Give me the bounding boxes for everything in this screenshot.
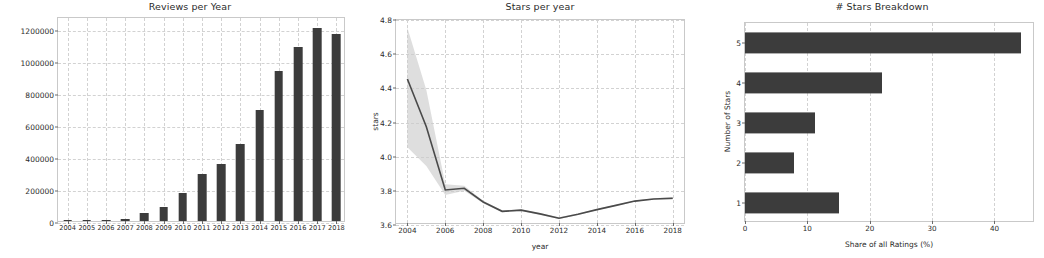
y-tick-mark — [55, 158, 58, 159]
x-tick-label: 2018 — [664, 226, 682, 235]
y-tick-label: 4.6 — [380, 50, 392, 59]
x-tick-label: 2011 — [194, 224, 211, 232]
y-tick-label: 1000000 — [21, 58, 54, 67]
gridline-vertical — [144, 18, 145, 221]
x-tick-label: 2012 — [550, 226, 568, 235]
y-tick-mark — [742, 163, 745, 164]
x-tick-label: 0 — [743, 224, 748, 233]
y-tick-label: 3.6 — [380, 221, 392, 230]
x-tick-label: 2013 — [232, 224, 249, 232]
bar — [236, 144, 245, 221]
x-tick-label: 2017 — [309, 224, 326, 232]
y-tick-label: 4.0 — [380, 152, 392, 161]
y-tick-label: 2 — [736, 159, 741, 168]
y-tick-mark — [742, 123, 745, 124]
x-tick-label: 2004 — [59, 224, 76, 232]
bar — [198, 174, 207, 221]
plot-area-stars-per-year: 3.63.84.04.24.44.64.82004200620082010201… — [395, 19, 685, 224]
x-tick-label: 2009 — [155, 224, 172, 232]
bar — [140, 213, 149, 221]
y-tick-label: 200000 — [25, 186, 54, 195]
x-axis-label-stars-breakdown: Share of all Ratings (%) — [744, 240, 1034, 249]
x-tick-label: 2008 — [136, 224, 153, 232]
chart-panel-reviews-per-year: Reviews per Year 02000004000006000008000… — [0, 0, 350, 258]
bar — [745, 72, 882, 93]
y-tick-mark — [742, 83, 745, 84]
bar — [313, 28, 322, 221]
y-axis-label-stars-breakdown: Number of Stars — [723, 91, 732, 153]
chart-panel-stars-per-year: Stars per year 3.63.84.04.24.44.64.82004… — [350, 0, 700, 258]
gridline-vertical — [68, 18, 69, 221]
y-tick-mark — [55, 223, 58, 224]
bar — [745, 152, 794, 173]
y-tick-label: 800000 — [25, 90, 54, 99]
x-tick-label: 2010 — [174, 224, 191, 232]
plot-area-reviews: 0200000400000600000800000100000012000002… — [57, 17, 345, 222]
x-tick-label: 10 — [803, 224, 812, 233]
x-tick-label: 40 — [990, 224, 999, 233]
x-tick-label: 2014 — [588, 226, 606, 235]
y-tick-label: 1 — [736, 199, 741, 208]
y-tick-mark — [55, 30, 58, 31]
plot-area-stars-breakdown: 01020304012345 — [744, 22, 1034, 222]
y-tick-mark — [742, 43, 745, 44]
bar — [294, 47, 303, 221]
y-tick-mark — [742, 203, 745, 204]
y-tick-label: 4.8 — [380, 16, 392, 25]
multi-chart-figure: Reviews per Year 02000004000006000008000… — [0, 0, 1044, 258]
x-tick-label: 2015 — [270, 224, 287, 232]
line-series-layer — [396, 20, 686, 225]
x-tick-label: 2005 — [78, 224, 95, 232]
gridline-vertical — [125, 18, 126, 221]
bar — [745, 32, 1021, 53]
y-tick-label: 4.4 — [380, 84, 392, 93]
x-tick-label: 2008 — [474, 226, 492, 235]
y-tick-label: 0 — [49, 219, 54, 228]
x-tick-label: 2014 — [251, 224, 268, 232]
x-tick-label: 2012 — [213, 224, 230, 232]
y-tick-mark — [55, 190, 58, 191]
chart-title-stars-breakdown: # Stars Breakdown — [700, 1, 1044, 12]
y-tick-mark — [55, 62, 58, 63]
y-tick-label: 600000 — [25, 122, 54, 131]
y-tick-label: 4.2 — [380, 118, 392, 127]
bar — [745, 112, 815, 133]
y-tick-mark — [55, 126, 58, 127]
x-tick-label: 2004 — [398, 226, 416, 235]
x-tick-label: 2016 — [290, 224, 307, 232]
bar — [274, 71, 283, 221]
x-tick-label: 2007 — [117, 224, 134, 232]
gridline-vertical — [106, 18, 107, 221]
bar — [159, 207, 168, 221]
gridline-vertical — [87, 18, 88, 221]
bar — [745, 192, 839, 213]
y-tick-label: 3 — [736, 119, 741, 128]
y-axis-label-stars-per-year: stars — [371, 101, 380, 141]
bar — [255, 110, 264, 221]
y-tick-mark — [55, 94, 58, 95]
chart-title-reviews: Reviews per Year — [0, 1, 350, 12]
bar — [178, 193, 187, 221]
x-tick-label: 2016 — [626, 226, 644, 235]
gridline-horizontal — [58, 31, 344, 32]
y-tick-label: 1200000 — [21, 26, 54, 35]
bar — [217, 164, 226, 221]
gridline-vertical — [183, 18, 184, 221]
bar — [332, 34, 341, 221]
y-tick-label: 5 — [736, 39, 741, 48]
x-tick-label: 20 — [865, 224, 874, 233]
y-tick-label: 4 — [736, 79, 741, 88]
x-tick-label: 30 — [928, 224, 937, 233]
x-tick-label: 2006 — [98, 224, 115, 232]
x-tick-label: 2006 — [436, 226, 454, 235]
gridline-vertical — [164, 18, 165, 221]
x-tick-label: 2010 — [512, 226, 530, 235]
x-tick-label: 2018 — [328, 224, 345, 232]
mean-line — [407, 79, 672, 218]
chart-panel-stars-breakdown: # Stars Breakdown 01020304012345 Share o… — [700, 0, 1044, 258]
chart-title-stars-per-year: Stars per year — [350, 1, 700, 12]
x-axis-label-stars-per-year: year — [395, 242, 685, 251]
y-tick-label: 400000 — [25, 154, 54, 163]
y-tick-label: 3.8 — [380, 186, 392, 195]
